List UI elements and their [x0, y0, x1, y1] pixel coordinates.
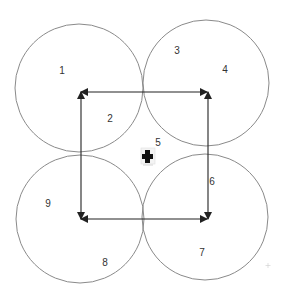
cross-marker-icon — [141, 148, 155, 165]
region-label: 1 — [59, 65, 65, 76]
coverage-circle-top-right — [143, 20, 269, 146]
region-label: 6 — [209, 176, 215, 187]
region-label: 7 — [199, 247, 205, 258]
coverage-circle-bottom-right — [142, 154, 268, 280]
region-label: 4 — [222, 64, 228, 75]
coverage-circle-top-left — [15, 24, 143, 152]
region-label: 5 — [155, 137, 161, 148]
small-mark — [266, 263, 271, 268]
labels-group: 123456789 — [45, 45, 228, 268]
region-label: 3 — [174, 45, 180, 56]
region-label: 2 — [107, 113, 113, 124]
coverage-diagram: 123456789 — [0, 0, 285, 302]
region-label: 9 — [45, 198, 51, 209]
region-label: 8 — [102, 257, 108, 268]
